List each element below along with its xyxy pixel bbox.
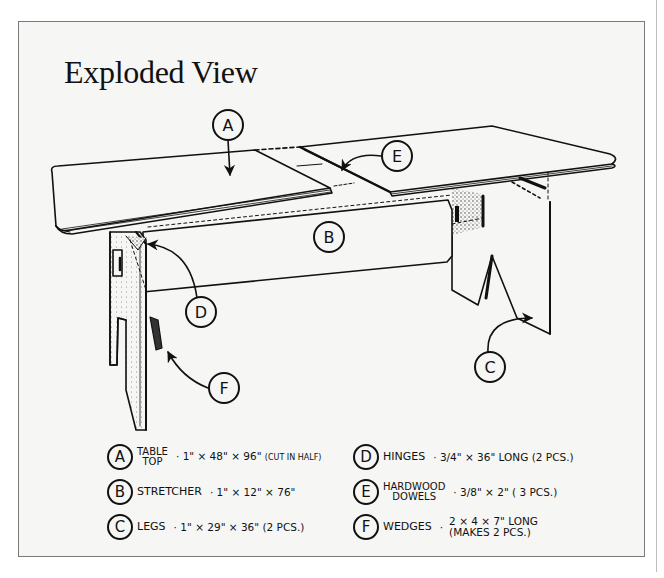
svg-text:F: F xyxy=(219,379,228,398)
legend-spec-e: · 3/8" × 2" ( 3 PCS.) xyxy=(453,487,557,498)
legend-name-d: HINGES xyxy=(383,452,425,462)
legend-item-a: A TABLE TOP · 1" × 48" × 96" (CUT IN HAL… xyxy=(107,442,321,472)
table-top-right xyxy=(300,126,616,196)
callout-b: B xyxy=(314,222,344,252)
legend-name-e: HARDWOOD DOWELS xyxy=(383,482,445,502)
legend-name-b: STRETCHER xyxy=(137,487,202,497)
legend-name-f: WEDGES xyxy=(383,522,432,532)
legend-spec-c: · 1" × 29" × 36" (2 PCS.) xyxy=(174,522,305,533)
right-leg xyxy=(452,172,550,334)
legend-name-c: LEGS xyxy=(137,522,166,532)
legend-spec-d: · 3/4" × 36" LONG (2 PCS.) xyxy=(433,452,573,463)
legend-item-c: C LEGS · 1" × 29" × 36" (2 PCS.) xyxy=(107,512,304,542)
legend-letter-d: D xyxy=(353,444,379,470)
callout-e: E xyxy=(382,141,412,171)
exploded-view-drawing: A B C D E F xyxy=(0,0,664,578)
svg-text:A: A xyxy=(223,116,234,135)
legend-letter-a: A xyxy=(107,444,133,470)
svg-text:E: E xyxy=(392,147,402,166)
svg-text:C: C xyxy=(484,358,495,377)
legend-name-a: TABLE TOP xyxy=(137,447,168,467)
legend-spec-f: · 2 × 4 × 7" LONG (MAKES 2 PCS.) xyxy=(440,516,538,538)
callout-f: F xyxy=(209,373,239,403)
legend-letter-c: C xyxy=(107,514,133,540)
callout-a: A xyxy=(213,110,243,140)
svg-text:B: B xyxy=(324,228,335,247)
callout-d: D xyxy=(186,297,216,327)
legend-item-b: B STRETCHER · 1" × 12" × 76" xyxy=(107,477,295,507)
arrow-c xyxy=(488,318,532,352)
legend-spec-b: · 1" × 12" × 76" xyxy=(210,487,296,498)
legend-letter-f: F xyxy=(353,514,379,540)
legend-letter-e: E xyxy=(353,479,379,505)
legend-letter-b: B xyxy=(107,479,133,505)
legend-spec-a: · 1" × 48" × 96" (CUT IN HALF) xyxy=(176,451,321,463)
legend-item-e: E HARDWOOD DOWELS · 3/8" × 2" ( 3 PCS.) xyxy=(353,477,557,507)
svg-text:D: D xyxy=(195,303,207,322)
callout-c: C xyxy=(475,352,505,382)
arrow-f xyxy=(168,352,208,388)
legend-item-d: D HINGES · 3/4" × 36" LONG (2 PCS.) xyxy=(353,442,574,472)
legend-item-f: F WEDGES · 2 × 4 × 7" LONG (MAKES 2 PCS.… xyxy=(353,512,538,542)
